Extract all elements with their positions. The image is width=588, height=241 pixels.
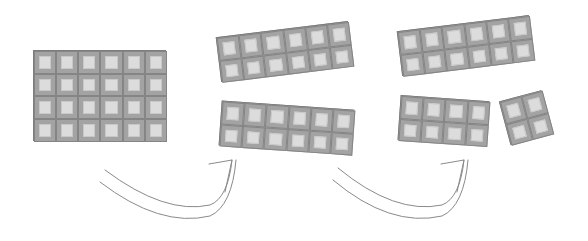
arrow-step-2-icon: [333, 160, 468, 218]
chocolate-bar-diagram: [0, 0, 588, 241]
arrows-layer: [0, 0, 588, 241]
arrow-step-1-icon: [100, 160, 236, 218]
